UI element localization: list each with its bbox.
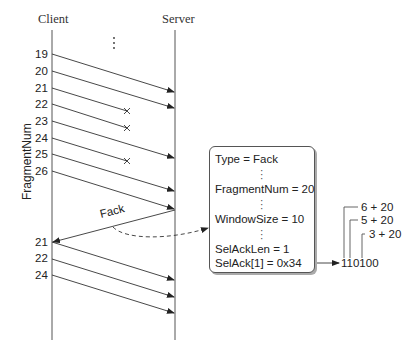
fragment-arrow-delivered [52, 54, 174, 92]
fack-detail-connector [113, 227, 208, 237]
fragment-label: 22 [35, 98, 48, 110]
packet-field-selack-len: SelAckLen = 1 [215, 243, 289, 255]
packet-field-selack: SelAck[1] = 0x34 [215, 257, 302, 269]
server-label: Server [162, 12, 195, 26]
fragment-arrow-delivered [52, 171, 174, 209]
fragment-label: 23 [35, 115, 48, 127]
fack-packet-box: Type = Fack ··· FragmentNum = 20 ··· Win… [209, 146, 315, 273]
retransmit-label: 24 [35, 269, 48, 281]
ellipsis-icon: ··· [260, 199, 263, 211]
ellipsis-icon: ··· [260, 169, 263, 181]
bitmap-annotation: 6 + 20 [361, 201, 393, 213]
fragment-label: 26 [35, 165, 48, 177]
fragment-label: 20 [35, 65, 48, 77]
fragment-arrow-delivered [52, 71, 174, 108]
fragment-label: 25 [35, 148, 48, 160]
fragment-label: 24 [35, 132, 48, 144]
retransmit-label: 21 [35, 236, 48, 248]
retransmit-arrow [52, 275, 174, 313]
fragment-label: 19 [35, 48, 48, 60]
fack-label: Fack [99, 202, 126, 220]
ellipsis-icon [113, 37, 115, 49]
bitmap-bracket [344, 207, 358, 258]
packet-field-window-size: WindowSize = 10 [215, 213, 304, 225]
sequence-diagram: Client Server FragmentNum 19 20 21 22 23… [0, 0, 410, 351]
bitmap-annotation: 3 + 20 [369, 228, 401, 240]
retransmit-labels: 21 22 24 [35, 236, 48, 281]
ellipsis-icon: ··· [260, 229, 263, 241]
fragment-label: 21 [35, 82, 48, 94]
axis-label: FragmentNum [20, 123, 34, 200]
loss-x-icon [124, 125, 130, 131]
fragment-arrow-delivered [52, 154, 174, 191]
fragment-arrow-delivered [52, 121, 174, 158]
client-label: Client [38, 12, 69, 26]
packet-field-type: Type = Fack [215, 153, 278, 165]
packet-field-fragment-num: FragmentNum = 20 [215, 183, 314, 195]
bitmap-annotation: 5 + 20 [361, 214, 393, 226]
retransmit-label: 22 [35, 252, 48, 264]
bitmap-bracket [350, 220, 358, 258]
fragment-labels: 19 20 21 22 23 24 25 26 [35, 48, 48, 177]
bitmap-bracket [362, 234, 365, 258]
retransmit-arrow [52, 259, 174, 297]
loss-x-icon [124, 158, 130, 164]
bitmap-value: 110100 [341, 257, 379, 269]
loss-x-icon [124, 108, 130, 114]
retransmit-arrow [52, 242, 174, 280]
